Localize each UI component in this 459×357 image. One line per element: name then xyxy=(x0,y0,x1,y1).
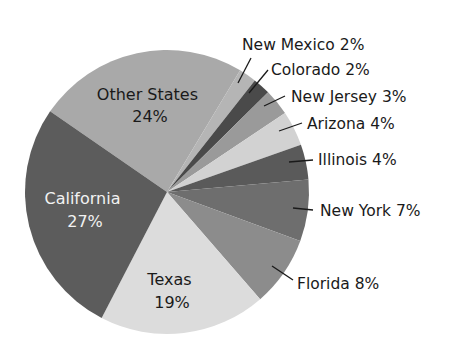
label-new-mexico: New Mexico 2% xyxy=(242,36,364,54)
pie-chart: Other States 24% California 27% Texas 19… xyxy=(0,0,459,357)
label-florida: Florida 8% xyxy=(297,275,379,293)
label-arizona: Arizona 4% xyxy=(307,115,395,133)
label-colorado: Colorado 2% xyxy=(271,61,370,79)
label-new-york: New York 7% xyxy=(320,202,421,220)
label-new-jersey: New Jersey 3% xyxy=(291,88,407,106)
label-illinois: Illinois 4% xyxy=(318,151,397,169)
